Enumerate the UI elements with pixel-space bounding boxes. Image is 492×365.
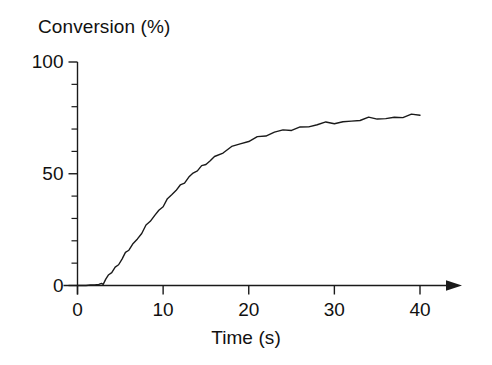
- chart-figure: Conversion (%) Time (s) 050100010203040: [0, 0, 492, 365]
- x-tick-label: 20: [238, 299, 259, 321]
- x-tick-label: 0: [72, 299, 83, 321]
- x-axis-arrowhead: [446, 280, 462, 290]
- y-tick-label: 50: [0, 163, 64, 185]
- y-axis: [69, 62, 78, 286]
- y-tick-label: 0: [0, 275, 64, 297]
- y-tick-label: 100: [0, 51, 64, 73]
- x-tick-label: 40: [409, 299, 430, 321]
- x-tick-label: 10: [153, 299, 174, 321]
- x-axis: [64, 280, 463, 294]
- series-line-0: [78, 114, 421, 285]
- x-tick-label: 30: [324, 299, 345, 321]
- data-series-group: [78, 114, 421, 285]
